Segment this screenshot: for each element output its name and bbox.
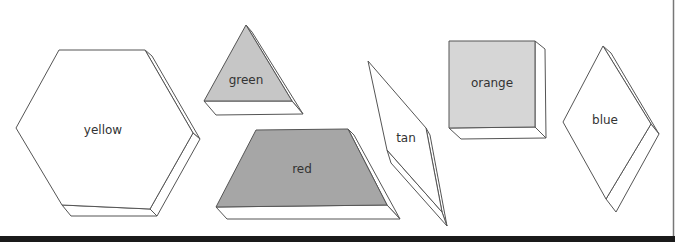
trapezoid-label: red	[292, 162, 312, 176]
triangle-label: green	[229, 73, 264, 87]
orange-square-block: orange	[449, 41, 546, 139]
pattern-blocks-diagram: yellow green red tan orange blue	[0, 0, 683, 244]
rhombus-label: blue	[592, 113, 618, 127]
green-triangle-block: green	[204, 25, 303, 115]
red-trapezoid-block: red	[216, 129, 400, 219]
square-side-bottom	[449, 127, 546, 139]
hexagon-label: yellow	[84, 123, 122, 137]
yellow-hexagon-block: yellow	[16, 50, 200, 216]
frame-bottom-border	[0, 236, 675, 242]
square-label: orange	[471, 76, 513, 90]
square-side-right	[535, 41, 546, 138]
thin-rhombus-label: tan	[396, 131, 416, 145]
triangle-top-face	[204, 25, 292, 101]
blue-rhombus-block: blue	[563, 46, 659, 212]
triangle-side-bottom	[204, 101, 303, 115]
